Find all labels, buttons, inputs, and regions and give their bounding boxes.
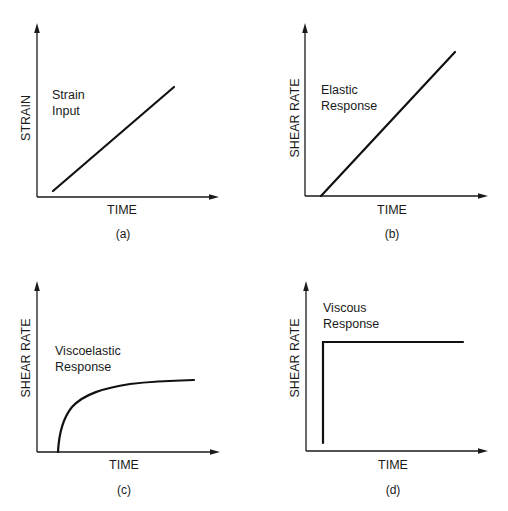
figure-canvas: Strain Input STRAIN TIME (a) Elastic Res… [0, 0, 508, 511]
note-line-1: Viscoelastic [55, 344, 121, 358]
x-axis-arrow-icon [209, 194, 219, 200]
panel-caption: (a) [116, 227, 131, 241]
y-axis-label: SHEAR RATE [19, 319, 33, 398]
y-axis-label: SHEAR RATE [288, 319, 302, 398]
note-line-1: Elastic [321, 83, 358, 97]
note-line-1: Viscous [323, 301, 367, 315]
x-axis-label: TIME [109, 458, 139, 472]
panel-a: Strain Input STRAIN TIME (a) [19, 23, 219, 241]
panel-caption: (d) [386, 483, 401, 497]
x-axis-label: TIME [378, 458, 408, 472]
y-axis-arrow-icon [34, 23, 40, 33]
y-axis-arrow-icon [34, 281, 40, 291]
viscoelastic-response-curve [58, 380, 194, 452]
panel-b: Elastic Response SHEAR RATE TIME (b) [288, 23, 488, 241]
strain-input-line [53, 87, 174, 191]
note-line-2: Response [323, 317, 379, 331]
y-axis-label: STRAIN [19, 95, 33, 141]
x-axis-arrow-icon [210, 449, 220, 455]
x-axis-label: TIME [107, 203, 137, 217]
panel-caption: (c) [117, 483, 131, 497]
note-line-2: Input [52, 104, 80, 118]
panel-c: Viscoelastic Response SHEAR RATE TIME (c… [19, 281, 220, 497]
y-axis-label: SHEAR RATE [288, 79, 302, 158]
note-line-1: Strain [52, 88, 85, 102]
y-axis-arrow-icon [302, 23, 308, 33]
x-axis-arrow-icon [478, 193, 488, 199]
viscous-response-step [323, 342, 463, 443]
note-line-2: Response [55, 360, 111, 374]
x-axis-arrow-icon [478, 448, 488, 454]
x-axis-label: TIME [377, 203, 407, 217]
y-axis-arrow-icon [303, 281, 309, 291]
panel-caption: (b) [385, 227, 400, 241]
panel-d: Viscous Response SHEAR RATE TIME (d) [288, 281, 488, 497]
note-line-2: Response [321, 99, 377, 113]
elastic-response-line [321, 52, 455, 196]
